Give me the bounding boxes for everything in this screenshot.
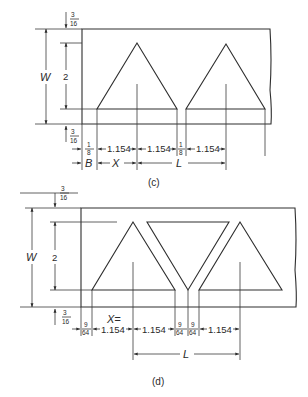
height-label-d: 2 bbox=[52, 252, 57, 263]
svg-text:64: 64 bbox=[189, 329, 197, 336]
svg-text:64: 64 bbox=[176, 329, 184, 336]
svg-text:16: 16 bbox=[62, 318, 70, 325]
svg-text:1.154: 1.154 bbox=[196, 143, 220, 154]
svg-text:1.154: 1.154 bbox=[107, 143, 131, 154]
caption-d: (d) bbox=[152, 376, 164, 387]
caption-c: (c) bbox=[148, 177, 160, 188]
svg-text:1: 1 bbox=[87, 141, 91, 148]
svg-text:8: 8 bbox=[179, 149, 183, 156]
svg-text:3: 3 bbox=[63, 309, 67, 316]
triangle-nesting-diagram: W 2 3 16 3 16 1 8 1.154 1.154 1 8 1.154 … bbox=[0, 0, 308, 397]
svg-text:1.154: 1.154 bbox=[208, 324, 232, 335]
width-label-c: W bbox=[40, 71, 52, 83]
svg-text:1: 1 bbox=[179, 141, 183, 148]
diagram-d: W 2 3 16 3 16 X= 9 64 1.154 1.154 9 64 9… bbox=[20, 185, 296, 387]
svg-text:16: 16 bbox=[60, 194, 68, 201]
height-label-c: 2 bbox=[63, 71, 68, 82]
svg-text:64: 64 bbox=[82, 329, 90, 336]
triangle-d-1 bbox=[92, 222, 175, 290]
triangle-d-inverted bbox=[147, 222, 229, 290]
svg-text:3: 3 bbox=[71, 11, 75, 18]
svg-text:1.154: 1.154 bbox=[101, 324, 125, 335]
triangle-c-2 bbox=[186, 44, 265, 109]
svg-text:1.154: 1.154 bbox=[142, 324, 166, 335]
svg-text:X: X bbox=[111, 157, 120, 169]
triangle-d-3 bbox=[199, 222, 282, 290]
svg-text:9: 9 bbox=[84, 321, 88, 328]
svg-text:B: B bbox=[85, 157, 92, 169]
svg-text:L: L bbox=[183, 348, 189, 360]
svg-text:L: L bbox=[176, 157, 182, 169]
svg-text:3: 3 bbox=[71, 128, 75, 135]
strip-outline-d bbox=[81, 208, 296, 307]
svg-text:16: 16 bbox=[70, 20, 78, 27]
svg-text:3: 3 bbox=[61, 185, 65, 192]
svg-text:1.154: 1.154 bbox=[147, 143, 171, 154]
diagram-c: W 2 3 16 3 16 1 8 1.154 1.154 1 8 1.154 … bbox=[35, 11, 271, 188]
svg-text:9: 9 bbox=[178, 321, 182, 328]
width-label-d: W bbox=[26, 251, 38, 263]
svg-text:8: 8 bbox=[87, 149, 91, 156]
svg-text:9: 9 bbox=[191, 321, 195, 328]
svg-text:16: 16 bbox=[70, 137, 78, 144]
